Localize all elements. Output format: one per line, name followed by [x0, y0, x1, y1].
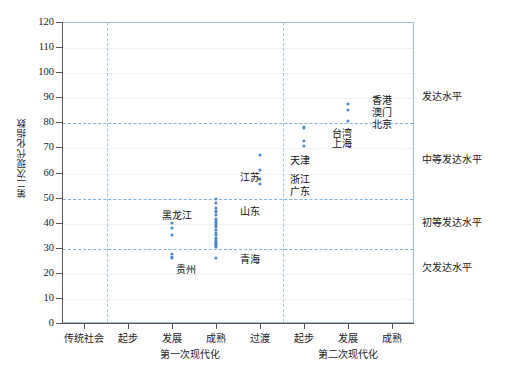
y-tick-label: 90	[14, 92, 54, 102]
x-axis-group-label: 第一次现代化	[160, 349, 220, 361]
y-tick-mark	[56, 47, 62, 48]
x-tick-mark	[260, 323, 261, 329]
gridline	[63, 48, 413, 49]
gridline	[63, 98, 413, 99]
point-annotation: 北京	[372, 119, 392, 130]
point-annotation: 广东	[290, 186, 310, 197]
point-annotation: 天津	[290, 155, 310, 166]
development-level-label: 发达水平	[422, 91, 462, 103]
y-tick-label: 100	[14, 67, 54, 77]
gridline	[63, 299, 413, 300]
x-tick-mark	[392, 323, 393, 329]
y-tick-mark	[56, 198, 62, 199]
y-tick-mark	[56, 97, 62, 98]
gridline	[63, 148, 413, 149]
x-tick-label: 起步	[118, 333, 138, 345]
plot-area	[62, 22, 414, 323]
x-tick-mark	[172, 323, 173, 329]
x-tick-label: 传统社会	[64, 333, 104, 345]
y-tick-mark	[56, 248, 62, 249]
y-tick-label: 40	[14, 218, 54, 228]
x-tick-mark	[304, 323, 305, 329]
y-tick-mark	[56, 72, 62, 73]
y-tick-mark	[56, 147, 62, 148]
point-annotation: 江苏	[240, 172, 260, 183]
y-axis-title: 第二次现代化指数	[17, 118, 35, 198]
level-threshold-line	[63, 199, 413, 200]
y-tick-label: 120	[14, 17, 54, 27]
y-tick-mark	[56, 223, 62, 224]
point-annotation: 山东	[240, 206, 260, 217]
y-tick-mark	[56, 173, 62, 174]
gridline	[63, 274, 413, 275]
point-annotation: 澳门	[372, 107, 392, 118]
modernization-scatter-chart: 0102030405060708090100110120 第二次现代化指数 传统…	[0, 0, 514, 386]
x-tick-mark	[84, 323, 85, 329]
x-tick-label: 发展	[338, 333, 358, 345]
x-tick-label: 过渡	[250, 333, 270, 345]
y-tick-label: 0	[14, 318, 54, 328]
section-divider	[283, 23, 284, 322]
y-tick-mark	[56, 273, 62, 274]
section-divider	[107, 23, 108, 322]
x-tick-label: 发展	[162, 333, 182, 345]
x-tick-mark	[128, 323, 129, 329]
x-tick-label: 起步	[294, 333, 314, 345]
gridline	[63, 174, 413, 175]
development-level-label: 中等发达水平	[422, 154, 482, 166]
x-tick-mark	[348, 323, 349, 329]
point-annotation: 黑龙江	[162, 210, 192, 221]
y-tick-label: 30	[14, 243, 54, 253]
point-annotation: 香港	[372, 95, 392, 106]
y-axis-line	[62, 22, 63, 323]
point-annotation: 上海	[332, 138, 352, 149]
gridline	[63, 224, 413, 225]
gridline	[63, 73, 413, 74]
x-axis-line	[62, 323, 414, 324]
y-tick-mark	[56, 122, 62, 123]
development-level-label: 欠发达水平	[422, 262, 472, 274]
x-axis-group-label: 第二次现代化	[318, 349, 378, 361]
y-tick-label: 10	[14, 293, 54, 303]
y-tick-mark	[56, 298, 62, 299]
level-threshold-line	[63, 249, 413, 250]
y-tick-label: 110	[14, 42, 54, 52]
x-tick-label: 成熟	[206, 333, 226, 345]
development-level-label: 初等发达水平	[422, 217, 482, 229]
x-tick-label: 成熟	[382, 333, 402, 345]
point-annotation: 青海	[240, 254, 260, 265]
y-tick-mark	[56, 22, 62, 23]
x-tick-mark	[216, 323, 217, 329]
y-tick-label: 20	[14, 268, 54, 278]
point-annotation: 浙江	[290, 174, 310, 185]
point-annotation: 贵州	[176, 264, 196, 275]
level-threshold-line	[63, 123, 413, 124]
